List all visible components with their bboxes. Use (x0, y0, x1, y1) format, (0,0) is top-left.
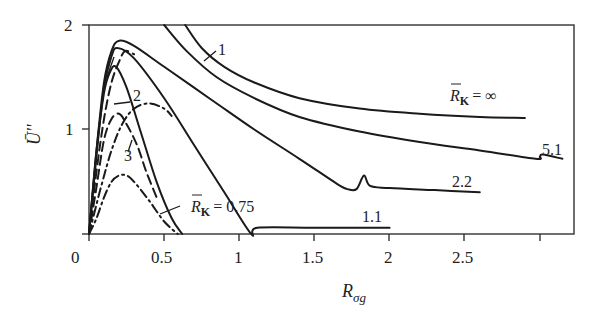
plot-frame (89, 25, 574, 234)
value-label-2.2: 2.2 (452, 173, 472, 190)
x-tick-0.5: 0.5 (151, 248, 172, 267)
curve-label-2: 2 (133, 87, 141, 104)
curve-label-1: 1 (218, 41, 226, 58)
curve-0 (185, 25, 525, 118)
x-tick-2: 2 (384, 248, 393, 267)
curve-7 (89, 103, 172, 234)
chart: 2 1 0 0.5 1 1.5 2 2.5 Ū'' Rσg 1 2 3 RK= … (0, 0, 602, 319)
y-axis: 2 1 (64, 16, 89, 234)
label-rk-075: RK= 0.75 (190, 195, 254, 219)
label-rk-infinity: RK= ∞ (449, 84, 497, 108)
x-tick-1.5: 1.5 (302, 248, 323, 267)
x-tick-1: 1 (234, 248, 243, 267)
curve-2 (89, 40, 480, 234)
y-axis-title: Ū'' (24, 123, 44, 145)
svg-text:RK= 0.75: RK= 0.75 (190, 198, 254, 219)
x-tick-0: 0 (71, 248, 80, 267)
curves (89, 25, 562, 236)
y-tick-1: 1 (65, 120, 74, 139)
y-tick-2: 2 (64, 16, 73, 35)
svg-text:RK= ∞: RK= ∞ (449, 87, 497, 108)
curve-label-3: 3 (124, 147, 132, 164)
value-label-5.1: 5.1 (542, 141, 562, 158)
value-label-1.1: 1.1 (362, 208, 382, 225)
x-tick-2.5: 2.5 (452, 248, 473, 267)
svg-text:Rσg: Rσg (341, 281, 366, 305)
leader-lines (107, 51, 216, 214)
x-axis-title: Rσg (341, 281, 366, 305)
x-axis: 0 0.5 1 1.5 2 2.5 (71, 234, 540, 267)
